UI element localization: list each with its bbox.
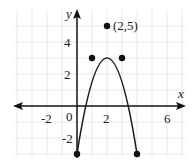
point-vertex <box>104 23 110 29</box>
x-axis <box>13 102 186 110</box>
grid <box>14 10 186 158</box>
tick-y-neg2: -2 <box>62 131 73 146</box>
x-axis-label: x <box>177 86 184 101</box>
y-axis-label: y <box>64 6 72 21</box>
origin-label: 0 <box>66 109 73 124</box>
point-4-neg3 <box>134 151 140 157</box>
tick-x-neg2: -2 <box>41 111 52 126</box>
point-0-neg3 <box>74 151 80 157</box>
point-1-3 <box>89 55 95 61</box>
tick-x-2: 2 <box>103 111 110 126</box>
parabola-graph: y x (2,5) 4 2 -2 0 -2 2 6 <box>0 0 193 162</box>
tick-y-4: 4 <box>64 35 71 50</box>
point-3-3 <box>119 55 125 61</box>
tick-y-2: 2 <box>64 67 71 82</box>
vertex-label: (2,5) <box>113 18 138 33</box>
tick-x-6: 6 <box>164 111 171 126</box>
